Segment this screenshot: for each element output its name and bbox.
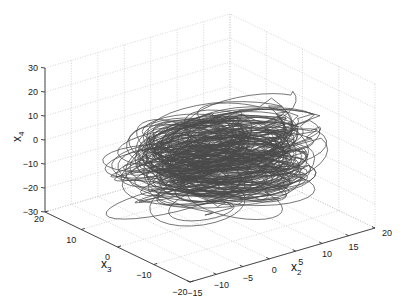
x3-tick xyxy=(81,228,85,229)
3d-trajectory-plot: −30−20−100102030−20−1001020−15−10−505101… xyxy=(0,0,407,308)
x2-tick-label: 15 xyxy=(349,242,359,252)
x4-tick-label: −20 xyxy=(23,183,38,193)
x2-axis-line xyxy=(190,228,375,282)
x4-tick-label: 30 xyxy=(28,63,38,73)
x3-tick-label: −20 xyxy=(172,287,187,297)
x4-tick xyxy=(41,164,45,165)
x2-tick-label: −5 xyxy=(243,273,253,283)
x4-tick xyxy=(41,188,45,189)
x2-tick-label: 20 xyxy=(382,228,392,238)
x4-tick-label: 0 xyxy=(33,135,38,145)
x3-tick-label: 20 xyxy=(34,214,44,224)
x3-tick-label: 10 xyxy=(66,235,76,245)
x4-tick xyxy=(41,212,45,213)
grid-line xyxy=(154,211,339,265)
x2-tick xyxy=(346,234,349,235)
x2-tick xyxy=(213,273,216,274)
x2-tick-label: 5 xyxy=(298,257,303,267)
x4-tick-label: −10 xyxy=(23,159,38,169)
x2-tick-label: 0 xyxy=(272,265,277,275)
x3-tick xyxy=(190,281,194,282)
x2-tick-label: −10 xyxy=(214,280,229,290)
x2-tick xyxy=(293,250,296,251)
x2-tick-label: −15 xyxy=(187,288,202,298)
x2-tick xyxy=(372,227,375,228)
x2-tick xyxy=(319,242,322,243)
x4-tick xyxy=(41,116,45,117)
x4-tick xyxy=(41,68,45,69)
x4-tick xyxy=(41,92,45,93)
x2-tick-label: 10 xyxy=(322,249,332,259)
x2-tick xyxy=(240,265,243,266)
x3-tick xyxy=(154,263,158,264)
grid-line xyxy=(45,38,230,92)
grid-line xyxy=(71,204,216,274)
x4-axis-label: x4 xyxy=(10,131,26,142)
x2-tick xyxy=(266,258,269,259)
x3-tick-label: −10 xyxy=(136,270,151,280)
trajectory-curve xyxy=(103,91,328,226)
x3-axis-label: x3 xyxy=(101,257,112,274)
x3-tick xyxy=(45,211,49,212)
x4-tick-label: 20 xyxy=(28,87,38,97)
x3-tick xyxy=(118,246,122,247)
trajectory-path xyxy=(103,91,328,226)
grid-line xyxy=(45,14,230,68)
x4-tick-label: 10 xyxy=(28,111,38,121)
x4-tick xyxy=(41,140,45,141)
x2-tick xyxy=(187,281,190,282)
